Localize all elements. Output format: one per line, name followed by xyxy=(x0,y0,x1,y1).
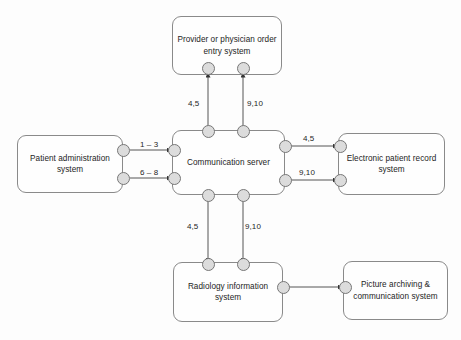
node-patient-administration[interactable]: Patient administration system xyxy=(17,135,123,193)
port-epr-left-lower[interactable] xyxy=(334,174,347,187)
port-ris-top-right[interactable] xyxy=(237,258,250,271)
port-pacs-left[interactable] xyxy=(339,281,352,294)
edge-label-cs-to-poe-left: 4,5 xyxy=(188,99,199,108)
port-cs-bottom-left[interactable] xyxy=(202,189,215,202)
node-electronic-patient-record[interactable]: Electronic patient record system xyxy=(338,133,445,195)
port-cs-right-upper[interactable] xyxy=(279,140,292,153)
port-poe-bottom-left[interactable] xyxy=(202,62,215,75)
edge-label-pas-to-cs-lower: 6 – 8 xyxy=(140,168,158,177)
port-pas-right-lower[interactable] xyxy=(117,172,130,185)
port-epr-left-upper[interactable] xyxy=(334,140,347,153)
node-provider-order-entry-label: Provider or physician order entry system xyxy=(173,34,280,57)
node-electronic-patient-record-label: Electronic patient record system xyxy=(343,153,441,176)
port-ris-right[interactable] xyxy=(277,281,290,294)
node-picture-archiving[interactable]: Picture archiving & communication system xyxy=(343,261,448,320)
edge-label-cs-to-ris-left: 4,5 xyxy=(187,222,198,231)
edge-label-cs-to-ris-right: 9,10 xyxy=(245,222,261,231)
port-cs-right-lower[interactable] xyxy=(279,174,292,187)
port-ris-top-left[interactable] xyxy=(202,258,215,271)
port-cs-top-left[interactable] xyxy=(202,125,215,138)
node-provider-order-entry[interactable]: Provider or physician order entry system xyxy=(172,16,282,75)
edge-label-pas-to-cs-upper: 1 – 3 xyxy=(140,140,158,149)
edge-label-cs-to-epr-lower: 9,10 xyxy=(299,168,315,177)
edge-label-cs-to-epr-upper: 4,5 xyxy=(303,134,314,143)
port-cs-top-right[interactable] xyxy=(237,125,250,138)
node-picture-archiving-label: Picture archiving & communication system xyxy=(349,279,441,302)
node-communication-server-label: Communication server xyxy=(183,157,274,169)
port-pas-right-upper[interactable] xyxy=(117,144,130,157)
port-cs-bottom-right[interactable] xyxy=(237,189,250,202)
port-poe-bottom-right[interactable] xyxy=(237,62,250,75)
node-communication-server[interactable]: Communication server xyxy=(172,130,285,195)
diagram-canvas: Provider or physician order entry system… xyxy=(0,0,461,340)
node-radiology-information-label: Radiology information system xyxy=(184,281,272,304)
port-cs-left-lower[interactable] xyxy=(168,172,181,185)
node-patient-administration-label: Patient administration system xyxy=(26,153,114,176)
port-cs-left-upper[interactable] xyxy=(168,144,181,157)
node-radiology-information[interactable]: Radiology information system xyxy=(173,262,283,322)
edge-label-cs-to-poe-right: 9,10 xyxy=(247,99,263,108)
